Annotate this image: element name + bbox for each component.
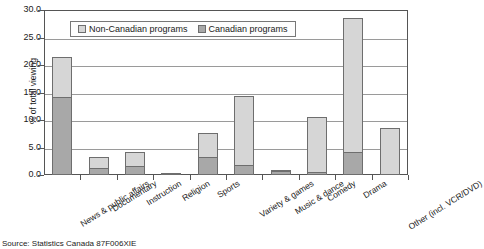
bar-stack[interactable] <box>125 152 145 175</box>
y-tick-label: 20.0 <box>1 60 41 69</box>
bar-stack[interactable] <box>343 18 363 175</box>
bar-segment-canadian[interactable] <box>307 172 327 175</box>
y-tick-label: 25.0 <box>1 33 41 42</box>
bar-segment-canadian[interactable] <box>161 173 181 175</box>
x-tick-mark <box>408 175 409 180</box>
legend-entry-canadian: Canadian programs <box>198 25 288 34</box>
legend-label: Non-Canadian programs <box>89 25 188 34</box>
bar-segment-canadian[interactable] <box>52 97 72 175</box>
bar-segment-canadian[interactable] <box>343 152 363 175</box>
x-tick-mark <box>80 175 81 180</box>
x-tick-mark <box>299 175 300 180</box>
x-tick-mark <box>117 175 118 180</box>
legend-swatch-icon <box>78 25 86 33</box>
bar-stack[interactable] <box>271 170 291 175</box>
bar-stack[interactable] <box>89 157 109 175</box>
y-tick-label: 15.0 <box>1 88 41 97</box>
x-tick-label: Religion <box>180 179 211 203</box>
y-tick-label: 30.0 <box>1 5 41 14</box>
x-tick-mark <box>226 175 227 180</box>
bar-segment-canadian[interactable] <box>234 165 254 175</box>
bar-segment-non-canadian[interactable] <box>89 157 109 169</box>
bar-segment-canadian[interactable] <box>125 166 145 175</box>
bar-stack[interactable] <box>234 96 254 175</box>
bar-stack[interactable] <box>198 133 218 175</box>
bar-group <box>335 10 371 175</box>
bar-group <box>372 10 408 175</box>
y-tick-label: 5.0 <box>1 143 41 152</box>
bar-stack[interactable] <box>380 128 400 175</box>
y-tick-mark <box>38 175 44 176</box>
x-tick-label: Other (incl. VCR/DVD) <box>407 179 484 232</box>
x-tick-mark <box>372 175 373 180</box>
bar-segment-non-canadian[interactable] <box>343 18 363 152</box>
x-tick-label: Drama <box>362 179 388 200</box>
bar-segment-non-canadian[interactable] <box>380 128 400 175</box>
bar-stack[interactable] <box>52 57 72 175</box>
y-tick-label: 10.0 <box>1 115 41 124</box>
bar-stack[interactable] <box>307 117 327 175</box>
bar-segment-non-canadian[interactable] <box>125 152 145 166</box>
bar-segment-non-canadian[interactable] <box>234 96 254 165</box>
bar-segment-non-canadian[interactable] <box>52 57 72 97</box>
chart-legend: Non-Canadian programs Canadian programs <box>70 21 296 37</box>
x-tick-label: Sports <box>216 179 242 200</box>
bar-segment-canadian[interactable] <box>89 168 109 175</box>
bar-group <box>299 10 335 175</box>
x-tick-mark <box>190 175 191 180</box>
legend-entry-non-canadian: Non-Canadian programs <box>78 25 188 34</box>
legend-label: Canadian programs <box>209 25 288 34</box>
source-note: Source: Statistics Canada 87F006XIE <box>2 239 136 248</box>
bar-segment-non-canadian[interactable] <box>198 133 218 157</box>
x-tick-mark <box>262 175 263 180</box>
bar-stack[interactable] <box>161 173 181 175</box>
legend-swatch-icon <box>198 25 206 33</box>
y-tick-label: 0.0 <box>1 170 41 179</box>
bar-segment-canadian[interactable] <box>198 157 218 175</box>
bar-segment-canadian[interactable] <box>271 171 291 175</box>
bar-segment-non-canadian[interactable] <box>307 117 327 173</box>
